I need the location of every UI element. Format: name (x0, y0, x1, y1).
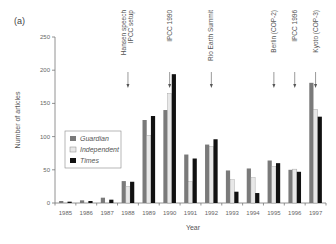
x-axis: 1985198619871988198919901991199219931994… (55, 203, 326, 216)
bar-independent (251, 178, 255, 203)
bar-guardian (59, 201, 63, 203)
bar-guardian (80, 200, 84, 203)
y-tick-label: 150 (40, 100, 51, 106)
bar-times (213, 139, 217, 203)
x-tick-label: 1995 (267, 210, 281, 216)
y-tick-label: 100 (40, 134, 51, 140)
legend-swatch-times (70, 158, 76, 163)
bar-independent (126, 186, 130, 203)
bar-independent (230, 180, 234, 203)
y-tick-label: 0 (47, 200, 51, 206)
x-tick-label: 1997 (309, 210, 323, 216)
bar-guardian (288, 170, 292, 203)
bar-guardian (184, 155, 188, 203)
x-tick-label: 1992 (205, 210, 219, 216)
legend-label-guardian: Guardian (80, 135, 109, 142)
x-tick-label: 1985 (59, 210, 73, 216)
bar-times (276, 163, 280, 203)
arrow-head-icon (314, 84, 317, 88)
y-axis-label: Number of articles (14, 91, 21, 148)
panel-label: (a) (14, 16, 25, 26)
bar-times (193, 159, 197, 203)
x-tick-label: 1987 (100, 210, 114, 216)
y-axis: 050100150200250 (40, 34, 55, 206)
y-tick-label: 200 (40, 67, 51, 73)
bar-guardian (163, 110, 167, 203)
annotation-label: Berlin (COP-2) (270, 10, 278, 53)
bar-guardian (122, 181, 126, 203)
x-axis-label: Year (186, 224, 201, 231)
bar-guardian (143, 120, 147, 203)
arrow-head-icon (293, 84, 296, 88)
y-tick-label: 50 (43, 167, 50, 173)
bar-times (172, 74, 176, 203)
annotations: Hansen speechIPCC setupIPCC 1990Rio Eart… (120, 10, 319, 88)
bar-guardian (268, 161, 272, 203)
annotation-label: Kyoto (COP-3) (312, 10, 320, 53)
bar-independent (293, 169, 297, 203)
bar-guardian (309, 83, 313, 203)
x-tick-label: 1986 (80, 210, 94, 216)
annotation-label: IPCC 1990 (166, 10, 173, 42)
bar-independent (147, 135, 151, 203)
legend-swatch-independent (70, 147, 76, 152)
annotation-label: IPCC 1996 (291, 10, 298, 42)
bar-independent (168, 93, 172, 203)
annotation-label: Rio Earth Summit (207, 10, 214, 61)
legend: GuardianIndependentTimes (65, 131, 121, 168)
bar-times (297, 172, 301, 203)
x-tick-label: 1991 (184, 210, 198, 216)
arrow-head-icon (168, 84, 171, 88)
bar-guardian (247, 168, 251, 203)
legend-swatch-guardian (70, 136, 76, 141)
arrow-head-icon (272, 84, 275, 88)
arrow-head-icon (126, 84, 129, 88)
bar-chart: (a) Number of articles Year 050100150200… (0, 0, 336, 244)
x-tick-label: 1993 (226, 210, 240, 216)
x-tick-label: 1996 (288, 210, 302, 216)
bar-times (68, 202, 72, 203)
bar-times (255, 193, 259, 203)
x-tick-label: 1994 (246, 210, 260, 216)
bar-guardian (226, 170, 230, 203)
legend-label-times: Times (80, 157, 99, 164)
bar-guardian (205, 145, 209, 203)
bar-times (151, 116, 155, 203)
bar-times (130, 182, 134, 203)
arrow-head-icon (210, 84, 213, 88)
bar-independent (209, 147, 213, 203)
annotation-label: IPCC setup (127, 10, 135, 44)
x-tick-label: 1989 (142, 210, 156, 216)
bar-guardian (101, 198, 105, 203)
x-tick-label: 1988 (121, 210, 135, 216)
bar-times (234, 192, 238, 203)
bar-independent (272, 166, 276, 203)
bar-times (318, 117, 322, 203)
bar-times (88, 201, 92, 203)
bar-times (109, 200, 113, 203)
bar-independent (188, 182, 192, 203)
y-tick-label: 250 (40, 34, 51, 40)
bar-independent (313, 109, 317, 203)
legend-label-independent: Independent (80, 146, 120, 154)
x-tick-label: 1990 (163, 210, 177, 216)
